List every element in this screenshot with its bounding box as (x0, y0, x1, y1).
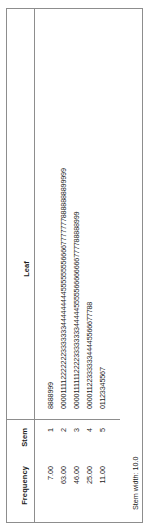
table-row: 11.00 5 01123345567 (91, 9, 104, 522)
frequency-value: 11.00 (98, 466, 107, 483)
leaf-value: 01123345567 (98, 367, 107, 409)
stem-leaf-table: Frequency Stem Leaf 7.00 1 (7, 9, 142, 522)
row-divider (52, 419, 65, 420)
cell-frequency: 11.00 (91, 460, 109, 522)
table-row: 63.00 2 00001111222222233333334444444445… (52, 9, 65, 522)
row-divider (78, 419, 91, 420)
table-header-row: Frequency Stem Leaf (7, 9, 31, 522)
stem-and-leaf-plot-card: Frequency Stem Leaf 7.00 1 (6, 8, 143, 523)
stem-value: 5 (98, 428, 107, 432)
leaf-header-label: Leaf (22, 9, 31, 409)
cell-leaf: 01123345567 (91, 9, 109, 419)
table-row: 46.00 3 00001111112222333333334444455555… (65, 9, 78, 522)
row-divider (39, 419, 52, 420)
header-cell-stem: Stem (13, 420, 31, 460)
rotated-page-wrapper: Frequency Stem Leaf 7.00 1 (0, 0, 150, 531)
header-cell-frequency: Frequency (13, 460, 31, 522)
header-cell-leaf: Leaf (22, 9, 31, 419)
stem-width-label: Stem width: 10.0 (131, 456, 140, 510)
cell-stem: 5 (91, 420, 109, 460)
stem-header-label: Stem (20, 428, 29, 447)
row-divider (91, 419, 104, 420)
table-body: 7.00 1 8888999 63.00 2 (35, 9, 117, 522)
frequency-header-label: Frequency (20, 466, 29, 505)
stem-width-footer: Stem width: 10.0 (117, 9, 142, 522)
header-divider (13, 419, 31, 420)
table-row: 7.00 1 8888999 (39, 9, 52, 522)
table-row: 25.00 4 0000112233333344445566677788 (78, 9, 91, 522)
row-divider (65, 419, 78, 420)
